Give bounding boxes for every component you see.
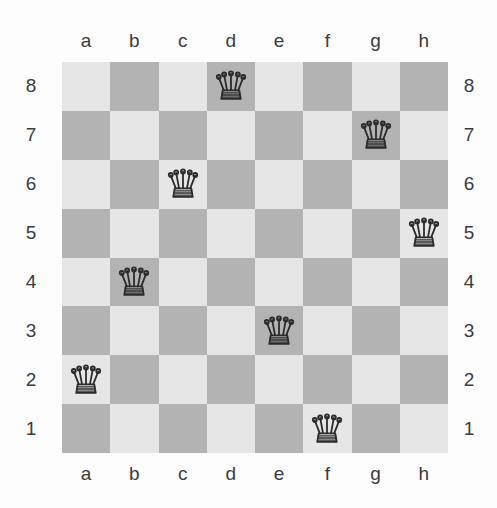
board-square-h4[interactable] bbox=[400, 258, 448, 307]
board-square-e7[interactable] bbox=[255, 111, 303, 160]
board-square-d5[interactable] bbox=[207, 209, 255, 258]
board-square-e8[interactable] bbox=[255, 62, 303, 111]
file-label-top-g: g bbox=[352, 26, 400, 56]
rank-label-left-5: 5 bbox=[14, 209, 48, 258]
file-label-top-d: d bbox=[207, 26, 255, 56]
file-label-top-a: a bbox=[62, 26, 110, 56]
board-square-d1[interactable] bbox=[207, 404, 255, 453]
board-square-b6[interactable] bbox=[110, 160, 158, 209]
chess-board-grid[interactable] bbox=[62, 62, 448, 453]
board-square-f8[interactable] bbox=[303, 62, 351, 111]
board-square-b3[interactable] bbox=[110, 306, 158, 355]
board-square-e5[interactable] bbox=[255, 209, 303, 258]
board-square-g4[interactable] bbox=[352, 258, 400, 307]
board-square-e3[interactable] bbox=[255, 306, 303, 355]
rank-label-left-8: 8 bbox=[14, 62, 48, 111]
queen-icon[interactable] bbox=[68, 362, 104, 398]
board-square-c6[interactable] bbox=[159, 160, 207, 209]
board-square-g7[interactable] bbox=[352, 111, 400, 160]
board-square-f1[interactable] bbox=[303, 404, 351, 453]
board-square-c4[interactable] bbox=[159, 258, 207, 307]
board-square-h7[interactable] bbox=[400, 111, 448, 160]
board-square-d6[interactable] bbox=[207, 160, 255, 209]
board-square-f6[interactable] bbox=[303, 160, 351, 209]
rank-label-right-1: 1 bbox=[452, 404, 486, 453]
board-square-a7[interactable] bbox=[62, 111, 110, 160]
board-square-h5[interactable] bbox=[400, 209, 448, 258]
board-square-e4[interactable] bbox=[255, 258, 303, 307]
queen-icon[interactable] bbox=[261, 313, 297, 349]
board-square-g8[interactable] bbox=[352, 62, 400, 111]
board-square-e1[interactable] bbox=[255, 404, 303, 453]
board-square-b7[interactable] bbox=[110, 111, 158, 160]
board-square-h2[interactable] bbox=[400, 355, 448, 404]
board-square-f7[interactable] bbox=[303, 111, 351, 160]
board-square-a1[interactable] bbox=[62, 404, 110, 453]
queen-icon[interactable] bbox=[116, 264, 152, 300]
file-label-top-h: h bbox=[400, 26, 448, 56]
board-square-c8[interactable] bbox=[159, 62, 207, 111]
board-square-b4[interactable] bbox=[110, 258, 158, 307]
board-square-d7[interactable] bbox=[207, 111, 255, 160]
rank-label-right-2: 2 bbox=[452, 355, 486, 404]
rank-label-right-8: 8 bbox=[452, 62, 486, 111]
board-square-f4[interactable] bbox=[303, 258, 351, 307]
file-label-bottom-d: d bbox=[207, 459, 255, 489]
board-square-c7[interactable] bbox=[159, 111, 207, 160]
board-square-b1[interactable] bbox=[110, 404, 158, 453]
board-square-d4[interactable] bbox=[207, 258, 255, 307]
board-square-h3[interactable] bbox=[400, 306, 448, 355]
board-square-d8[interactable] bbox=[207, 62, 255, 111]
board-square-e6[interactable] bbox=[255, 160, 303, 209]
file-label-top-f: f bbox=[303, 26, 351, 56]
rank-label-right-3: 3 bbox=[452, 306, 486, 355]
rank-label-left-2: 2 bbox=[14, 355, 48, 404]
board-square-g5[interactable] bbox=[352, 209, 400, 258]
board-square-c3[interactable] bbox=[159, 306, 207, 355]
board-square-d2[interactable] bbox=[207, 355, 255, 404]
rank-label-right-4: 4 bbox=[452, 258, 486, 307]
queen-icon[interactable] bbox=[309, 411, 345, 447]
rank-label-left-7: 7 bbox=[14, 111, 48, 160]
board-square-e2[interactable] bbox=[255, 355, 303, 404]
rank-label-left-4: 4 bbox=[14, 258, 48, 307]
rank-labels-left: 8 7 6 5 4 3 2 1 bbox=[14, 62, 48, 453]
board-square-b5[interactable] bbox=[110, 209, 158, 258]
board-square-g1[interactable] bbox=[352, 404, 400, 453]
file-label-bottom-a: a bbox=[62, 459, 110, 489]
board-square-f5[interactable] bbox=[303, 209, 351, 258]
board-square-c2[interactable] bbox=[159, 355, 207, 404]
board-square-a5[interactable] bbox=[62, 209, 110, 258]
board-square-g2[interactable] bbox=[352, 355, 400, 404]
queen-icon[interactable] bbox=[406, 215, 442, 251]
file-label-bottom-f: f bbox=[303, 459, 351, 489]
queen-icon[interactable] bbox=[358, 117, 394, 153]
board-square-h1[interactable] bbox=[400, 404, 448, 453]
board-square-c5[interactable] bbox=[159, 209, 207, 258]
board-square-a8[interactable] bbox=[62, 62, 110, 111]
board-square-a2[interactable] bbox=[62, 355, 110, 404]
file-label-top-b: b bbox=[110, 26, 158, 56]
board-square-a4[interactable] bbox=[62, 258, 110, 307]
rank-label-right-7: 7 bbox=[452, 111, 486, 160]
board-square-a6[interactable] bbox=[62, 160, 110, 209]
rank-label-left-6: 6 bbox=[14, 160, 48, 209]
rank-label-left-1: 1 bbox=[14, 404, 48, 453]
board-square-h8[interactable] bbox=[400, 62, 448, 111]
file-labels-bottom: a b c d e f g h bbox=[62, 459, 448, 489]
rank-labels-right: 8 7 6 5 4 3 2 1 bbox=[452, 62, 486, 453]
file-label-top-c: c bbox=[159, 26, 207, 56]
board-square-f2[interactable] bbox=[303, 355, 351, 404]
board-square-d3[interactable] bbox=[207, 306, 255, 355]
board-square-g3[interactable] bbox=[352, 306, 400, 355]
board-square-c1[interactable] bbox=[159, 404, 207, 453]
queen-icon[interactable] bbox=[165, 166, 201, 202]
board-square-b2[interactable] bbox=[110, 355, 158, 404]
board-square-f3[interactable] bbox=[303, 306, 351, 355]
board-square-h6[interactable] bbox=[400, 160, 448, 209]
queen-icon[interactable] bbox=[213, 68, 249, 104]
board-square-g6[interactable] bbox=[352, 160, 400, 209]
board-square-a3[interactable] bbox=[62, 306, 110, 355]
board-square-b8[interactable] bbox=[110, 62, 158, 111]
file-label-bottom-e: e bbox=[255, 459, 303, 489]
